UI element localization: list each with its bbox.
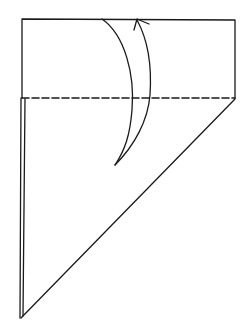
- top-flap-rectangle: [22, 19, 235, 98]
- origami-diagram: [0, 0, 249, 334]
- diagonal-edge: [21, 99, 235, 318]
- fold-arrow-curve-left: [102, 19, 133, 165]
- left-edge: [20, 98, 25, 318]
